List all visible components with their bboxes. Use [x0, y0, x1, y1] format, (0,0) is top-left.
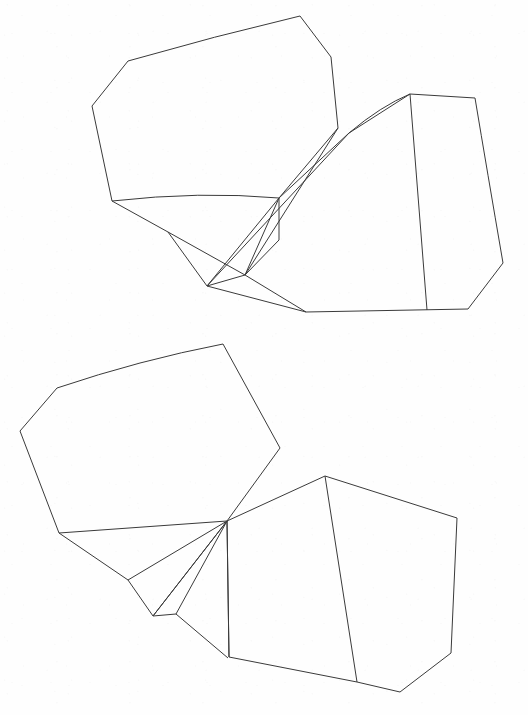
- upper-left-crystal-outline: [92, 16, 338, 286]
- lower-left-base-edge: [176, 614, 228, 658]
- upper-figure-group: [92, 16, 503, 312]
- lower-left-lower-facet-edge: [153, 614, 176, 616]
- lower-left-facet-ray-a: [128, 521, 227, 580]
- lower-left-facet-ray-c: [176, 521, 227, 614]
- lower-figure-group: [20, 344, 457, 692]
- lower-left-girdle-edge: [59, 521, 227, 533]
- upper-right-prism-base-edge: [207, 286, 306, 312]
- upper-left-curved-girdle: [112, 195, 279, 201]
- lower-right-hub-vertical: [227, 521, 229, 657]
- upper-right-long-prism-edge: [207, 133, 349, 286]
- lower-left-crystal-outline: [20, 344, 280, 616]
- lower-left-facet-ray-b: [153, 521, 227, 616]
- figure-canvas: [0, 0, 528, 715]
- lower-right-inner-diagonal: [325, 476, 357, 682]
- crystal-line-drawing: [0, 0, 528, 715]
- upper-right-inner-diagonal: [410, 94, 427, 310]
